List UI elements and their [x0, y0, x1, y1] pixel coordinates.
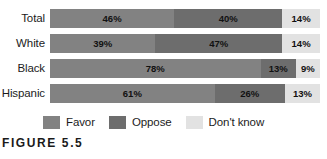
bar-segment-favor: 39%: [50, 34, 155, 53]
legend-item-oppose: Oppose: [109, 116, 172, 129]
bar-segment-oppose: 26%: [215, 84, 285, 103]
bar-segment-dont-know: 14%: [282, 9, 320, 28]
bar-track-total: 46% 40% 14%: [50, 9, 320, 28]
legend-label-dont-know: Don't know: [209, 116, 265, 128]
legend-item-dont-know: Don't know: [186, 116, 265, 129]
table-row: Hispanic 61% 26% 13%: [0, 84, 327, 103]
legend-label-favor: Favor: [66, 116, 95, 128]
bar-track-white: 39% 47% 14%: [50, 34, 320, 53]
bar-segment-oppose: 40%: [174, 9, 282, 28]
table-row: Black 78% 13% 9%: [0, 59, 327, 78]
bar-segment-oppose: 47%: [155, 34, 282, 53]
bar-segment-oppose: 13%: [261, 59, 296, 78]
legend-item-favor: Favor: [43, 116, 95, 129]
dont-know-swatch-icon: [186, 116, 203, 129]
row-label-hispanic: Hispanic: [0, 84, 45, 103]
stacked-bar-chart: Total 46% 40% 14% White 39% 47% 14% Blac…: [0, 7, 327, 111]
bar-segment-favor: 61%: [50, 84, 215, 103]
bar-segment-favor: 46%: [50, 9, 174, 28]
bar-segment-favor: 78%: [50, 59, 261, 78]
oppose-swatch-icon: [109, 116, 126, 129]
bar-segment-dont-know: 9%: [296, 59, 320, 78]
bar-track-black: 78% 13% 9%: [50, 59, 320, 78]
bar-segment-dont-know: 13%: [285, 84, 320, 103]
table-row: White 39% 47% 14%: [0, 34, 327, 53]
favor-swatch-icon: [43, 116, 60, 129]
clipped-chart-title: [0, 0, 327, 2]
row-label-white: White: [0, 34, 45, 53]
row-label-black: Black: [0, 59, 45, 78]
row-label-total: Total: [0, 9, 45, 28]
figure-caption: FIGURE 5.5: [2, 136, 83, 150]
bar-segment-dont-know: 14%: [282, 34, 320, 53]
chart-legend: Favor Oppose Don't know: [0, 112, 327, 132]
bar-track-hispanic: 61% 26% 13%: [50, 84, 320, 103]
table-row: Total 46% 40% 14%: [0, 9, 327, 28]
legend-label-oppose: Oppose: [132, 116, 172, 128]
